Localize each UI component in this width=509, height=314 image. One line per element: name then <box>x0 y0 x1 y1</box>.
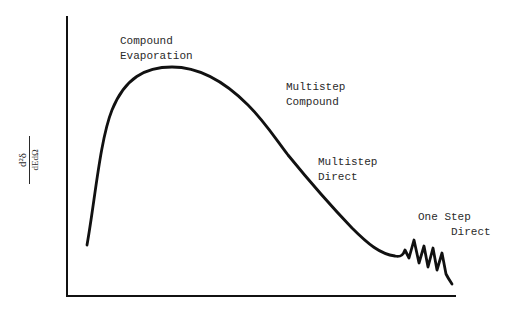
label-compound-evaporation: Compound Evaporation <box>120 34 193 64</box>
spectrum-curve <box>87 67 452 284</box>
label-multistep-compound: Multistep Compound <box>286 80 345 110</box>
label-multistep-direct: Multistep Direct <box>318 155 377 185</box>
y-axis-numerator: d²δ <box>16 136 30 184</box>
chart-canvas <box>0 0 509 314</box>
y-axis-label: d²δ dEdΩ <box>16 136 56 184</box>
y-axis-denominator: dEdΩ <box>30 136 41 184</box>
label-one-step-direct: One Step Direct <box>418 210 491 240</box>
